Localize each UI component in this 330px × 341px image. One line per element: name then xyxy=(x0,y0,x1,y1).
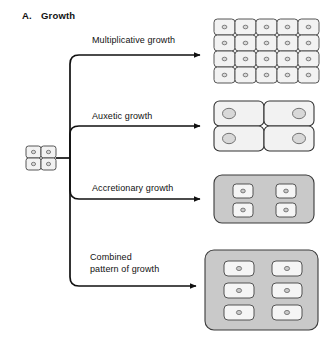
connector-multiplicative xyxy=(70,55,200,158)
connector-lines xyxy=(56,55,200,286)
source-cell-cluster xyxy=(26,146,56,170)
cell-grid-2x2-large xyxy=(214,101,314,151)
cell-grid-5x4 xyxy=(214,19,319,83)
diagram-canvas xyxy=(0,0,330,341)
connector-combined xyxy=(70,158,196,286)
extracellular-matrix-block xyxy=(214,175,314,223)
connector-auxetic xyxy=(70,126,200,158)
growth-diagram-figure: A.Growth Multiplicative growth Auxetic g… xyxy=(0,0,330,341)
diagram-accretionary-growth xyxy=(214,175,314,223)
diagram-multiplicative-growth xyxy=(214,19,319,83)
diagram-auxetic-growth xyxy=(214,101,314,151)
connector-accretionary xyxy=(70,158,200,199)
diagram-combined-growth xyxy=(205,250,318,330)
